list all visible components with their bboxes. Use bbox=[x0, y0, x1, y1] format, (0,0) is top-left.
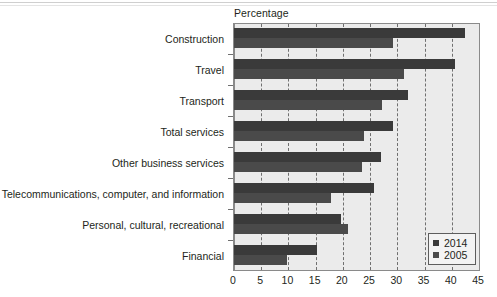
bar-group bbox=[234, 117, 479, 148]
x-tick-label-40: 40 bbox=[445, 274, 457, 286]
bar-2005 bbox=[234, 69, 404, 79]
bar-2005 bbox=[234, 100, 382, 110]
bar-2014 bbox=[234, 59, 455, 69]
bar-2005 bbox=[234, 131, 364, 141]
legend-item-2014: 2014 bbox=[433, 237, 471, 249]
x-tick-label-25: 25 bbox=[363, 274, 375, 286]
bar-2005 bbox=[234, 255, 287, 265]
y-tick bbox=[228, 116, 233, 117]
bar-2014 bbox=[234, 28, 465, 38]
chart-figure: Percentage ConstructionTravelTransportTo… bbox=[0, 0, 497, 297]
category-label: Travel bbox=[195, 64, 224, 76]
gridline-45 bbox=[479, 24, 480, 270]
bar-2014 bbox=[234, 121, 393, 131]
bar-2005 bbox=[234, 224, 348, 234]
legend-label-2014: 2014 bbox=[444, 237, 467, 249]
y-tick bbox=[228, 54, 233, 55]
axis-title: Percentage bbox=[234, 7, 289, 19]
legend-label-2005: 2005 bbox=[444, 249, 467, 261]
bar-group bbox=[234, 86, 479, 117]
y-tick bbox=[228, 85, 233, 86]
category-label: Total services bbox=[160, 126, 224, 138]
bar-group bbox=[234, 55, 479, 86]
bar-group bbox=[234, 24, 479, 55]
y-tick bbox=[228, 147, 233, 148]
category-label: Other business services bbox=[112, 157, 224, 169]
x-tick-label-30: 30 bbox=[390, 274, 402, 286]
x-axis-tick-labels: 051015202530354045 bbox=[233, 274, 480, 290]
x-tick-label-20: 20 bbox=[336, 274, 348, 286]
category-label: Financial bbox=[182, 250, 224, 262]
x-tick-label-5: 5 bbox=[257, 274, 263, 286]
bar-2014 bbox=[234, 245, 317, 255]
bar-group bbox=[234, 179, 479, 210]
bar-2014 bbox=[234, 90, 408, 100]
category-label: Transport bbox=[179, 95, 224, 107]
category-labels: ConstructionTravelTransportTotal service… bbox=[0, 23, 228, 271]
x-tick-label-10: 10 bbox=[282, 274, 294, 286]
category-label: Telecommunications, computer, and inform… bbox=[2, 188, 224, 200]
category-label: Construction bbox=[165, 33, 224, 45]
bar-2014 bbox=[234, 152, 381, 162]
chart-legend: 2014 2005 bbox=[428, 233, 476, 265]
bar-2005 bbox=[234, 162, 362, 172]
category-label: Personal, cultural, recreational bbox=[82, 219, 224, 231]
y-tick bbox=[228, 209, 233, 210]
bar-group bbox=[234, 148, 479, 179]
x-tick-label-35: 35 bbox=[418, 274, 430, 286]
page-top-rule bbox=[0, 2, 497, 3]
legend-swatch-2005 bbox=[433, 252, 439, 258]
bar-2014 bbox=[234, 183, 374, 193]
bar-2005 bbox=[234, 193, 331, 203]
bar-2014 bbox=[234, 214, 341, 224]
page-top-rule-secondary bbox=[0, 5, 497, 6]
x-tick-label-15: 15 bbox=[309, 274, 321, 286]
bar-2005 bbox=[234, 38, 393, 48]
y-tick bbox=[228, 240, 233, 241]
y-tick bbox=[228, 178, 233, 179]
x-tick-label-45: 45 bbox=[472, 274, 484, 286]
x-tick-label-0: 0 bbox=[230, 274, 236, 286]
legend-item-2005: 2005 bbox=[433, 249, 471, 261]
legend-swatch-2014 bbox=[433, 240, 439, 246]
